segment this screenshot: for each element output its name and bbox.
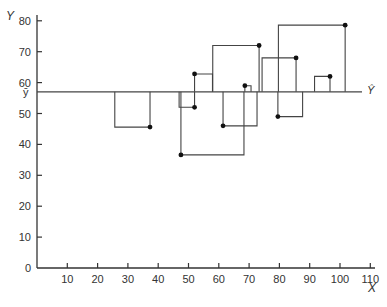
x-tick-label: 10 — [61, 273, 73, 285]
data-point — [257, 43, 262, 48]
x-ticks: 102030405060708090100110 — [61, 263, 379, 285]
x-tick-label: 20 — [91, 273, 103, 285]
y-tick-label: 50 — [19, 108, 31, 120]
data-point — [192, 105, 197, 110]
y-tick-label: 40 — [19, 138, 31, 150]
data-point — [179, 153, 184, 158]
deviation-square — [315, 76, 330, 91]
y-axis-label: Y — [6, 9, 15, 23]
data-point — [192, 72, 197, 77]
deviation-square — [262, 58, 296, 92]
deviation-squares — [115, 25, 345, 155]
deviation-square — [213, 46, 259, 92]
data-point — [242, 83, 247, 88]
x-tick-label: 70 — [243, 273, 255, 285]
y-tick-label: 20 — [19, 200, 31, 212]
data-points — [148, 23, 348, 158]
data-point — [275, 114, 280, 119]
x-tick-label: 80 — [273, 273, 285, 285]
deviation-square — [278, 25, 345, 92]
y-tick-label: 70 — [19, 46, 31, 58]
y-ticks: 01020304050607080 — [19, 15, 42, 274]
y-tick-label: 80 — [19, 15, 31, 27]
data-point — [294, 55, 299, 60]
x-axis-label: X — [367, 281, 377, 295]
y-tick-label: 0 — [25, 262, 31, 274]
mean-right-label: Ŷ — [367, 84, 375, 96]
x-tick-label: 40 — [152, 273, 164, 285]
data-point — [221, 123, 226, 128]
data-point — [328, 74, 333, 79]
data-point — [343, 23, 348, 28]
x-tick-label: 60 — [213, 273, 225, 285]
x-tick-label: 30 — [122, 273, 134, 285]
data-point — [148, 125, 153, 130]
deviation-square — [223, 92, 257, 126]
deviation-square — [181, 92, 244, 155]
squared-deviations-chart: 01020304050607080 1020304050607080901001… — [0, 0, 387, 307]
mean-left-label: ȳ — [23, 86, 29, 98]
axes — [37, 15, 375, 268]
y-tick-label: 30 — [19, 169, 31, 181]
y-tick-label: 10 — [19, 231, 31, 243]
deviation-square — [115, 92, 150, 127]
x-tick-label: 100 — [331, 273, 349, 285]
x-tick-label: 90 — [304, 273, 316, 285]
x-tick-label: 50 — [182, 273, 194, 285]
deviation-square — [278, 92, 303, 117]
deviation-square — [195, 74, 213, 92]
